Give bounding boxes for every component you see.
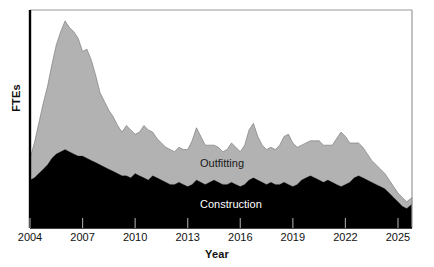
x-tick-label-2025: 2025: [386, 231, 410, 243]
x-tick-label-2004: 2004: [18, 231, 42, 243]
x-tick-label-2010: 2010: [123, 231, 147, 243]
x-tick-label-2022: 2022: [333, 231, 357, 243]
x-tick-label-2019: 2019: [281, 231, 305, 243]
x-tick-label-2016: 2016: [228, 231, 252, 243]
chart-plot-svg: [0, 0, 434, 267]
stacked-area-chart: 20042007201020132016201920222025 FTEs Ye…: [0, 0, 434, 267]
y-axis-title: FTEs: [10, 70, 22, 126]
x-axis-title: Year: [0, 248, 434, 260]
series-label-outfitting: Outfitting: [200, 157, 244, 169]
x-tick-label-2013: 2013: [175, 231, 199, 243]
series-label-construction: Construction: [200, 198, 262, 210]
x-tick-label-2007: 2007: [70, 231, 94, 243]
